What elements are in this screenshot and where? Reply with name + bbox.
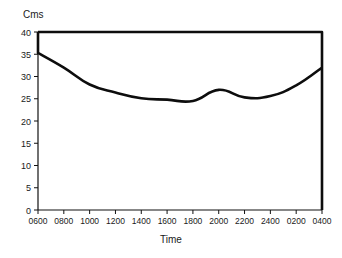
x-tick-label: 1400 xyxy=(132,216,151,226)
y-tick-label: 20 xyxy=(21,117,31,127)
y-tick-label: 25 xyxy=(21,94,31,104)
y-tick-label: 5 xyxy=(26,183,31,193)
y-tick-label: 0 xyxy=(26,206,31,216)
x-tick-label: 0200 xyxy=(287,216,306,226)
y-axis-title: Cms xyxy=(23,9,44,20)
y-tick-label: 40 xyxy=(21,28,31,38)
x-tick-label: 2200 xyxy=(235,216,254,226)
y-tick-label: 15 xyxy=(21,139,31,149)
line-chart: Cms 0510152025303540 0600080010001200140… xyxy=(0,0,342,258)
x-tick-label: 0600 xyxy=(29,216,48,226)
y-tick-label: 30 xyxy=(21,72,31,82)
x-tick-label: 1000 xyxy=(80,216,99,226)
x-tick-label: 2400 xyxy=(261,216,280,226)
x-tick-label: 1200 xyxy=(106,216,125,226)
x-tick-label: 1600 xyxy=(158,216,177,226)
y-tick-label: 10 xyxy=(21,161,31,171)
y-tick-label: 35 xyxy=(21,50,31,60)
x-tick-label: 2000 xyxy=(209,216,228,226)
x-axis-title: Time xyxy=(160,234,182,245)
x-tick-label: 1800 xyxy=(183,216,202,226)
x-tick-label: 0800 xyxy=(54,216,73,226)
chart-container: Cms 0510152025303540 0600080010001200140… xyxy=(0,0,342,258)
x-tick-label: 0400 xyxy=(313,216,332,226)
